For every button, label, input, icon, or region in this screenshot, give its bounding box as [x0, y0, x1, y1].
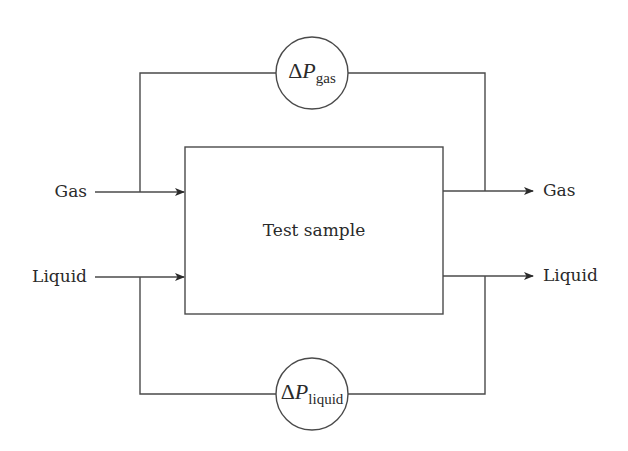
delta-symbol: Δ	[281, 379, 295, 404]
gas-outlet-label: Gas	[543, 182, 575, 199]
gas-pressure-tap-right	[348, 73, 485, 191]
gas-inlet-label: Gas	[40, 183, 87, 200]
liquid-inlet-label: Liquid	[20, 268, 87, 285]
gas-subscript: gas	[316, 70, 336, 86]
delta-p-liquid-label: ΔPliquid	[270, 379, 354, 408]
liquid-outlet-label: Liquid	[543, 267, 598, 284]
delta-p-gas-label: ΔPgas	[276, 58, 348, 87]
delta-symbol: Δ	[288, 58, 302, 83]
liquid-pressure-tap-left	[140, 277, 276, 394]
pressure-var: P	[295, 379, 308, 404]
gas-pressure-tap-left	[140, 73, 276, 192]
liquid-pressure-tap-right	[348, 276, 485, 394]
pressure-var: P	[302, 58, 315, 83]
test-sample-label: Test sample	[187, 222, 441, 239]
liquid-subscript: liquid	[308, 391, 343, 407]
